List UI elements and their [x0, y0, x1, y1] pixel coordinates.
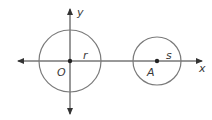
center-label-a: A: [146, 66, 155, 79]
x-axis-label: x: [198, 62, 206, 75]
center-point-o: [68, 59, 72, 63]
radius-label-s: s: [166, 49, 172, 62]
center-point-a: [155, 59, 159, 63]
y-axis-label: y: [76, 6, 84, 19]
radius-label-r: r: [83, 49, 89, 62]
coordinate-diagram: y x O r A s: [0, 0, 212, 120]
center-label-o: O: [57, 66, 66, 79]
